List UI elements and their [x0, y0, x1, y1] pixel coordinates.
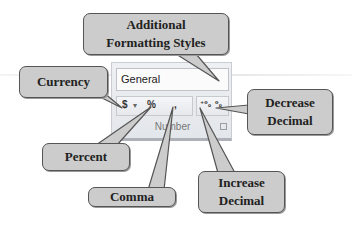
callout-decrease-decimal: Decrease Decimal — [247, 89, 333, 135]
callout-percent: Percent — [42, 143, 130, 171]
decrease-decimal-button[interactable]: ⁰₀ — [215, 100, 222, 109]
number-format-dropdown[interactable]: General — [116, 68, 229, 91]
callout-currency: Currency — [19, 66, 108, 98]
increase-decimal-button[interactable]: ⁺⁰₀ — [200, 100, 211, 109]
callout-text-line: Decimal — [267, 112, 312, 130]
callout-comma: Comma — [88, 187, 176, 207]
callout-text-line: Decrease — [265, 94, 315, 112]
number-group-label: Number — [112, 121, 233, 132]
callout-text-line: Additional — [126, 16, 185, 34]
callout-text-line: Percent — [65, 148, 107, 166]
callout-increase-decimal: Increase Decimal — [198, 171, 285, 213]
decimal-buttons-group: ⁺⁰₀ ⁰₀ — [196, 96, 229, 116]
currency-dropdown-icon[interactable]: ▾ — [133, 101, 137, 110]
dialog-launcher-icon[interactable] — [220, 123, 227, 130]
callout-text-line: Currency — [37, 73, 90, 91]
comma-button[interactable]: , — [174, 99, 177, 110]
callout-text-line: Formatting Styles — [106, 34, 205, 52]
number-format-value: General — [121, 73, 160, 85]
callout-additional-formatting: Additional Formatting Styles — [83, 13, 229, 55]
currency-button[interactable]: $ — [122, 99, 128, 110]
number-group-panel: General $ ▾ % , ⁺⁰₀ ⁰₀ Number — [111, 62, 232, 141]
format-buttons-group: $ ▾ % , — [116, 96, 193, 116]
callout-text-line: Decimal — [219, 192, 264, 210]
callout-text-line: Comma — [110, 188, 154, 206]
callout-text-line: Increase — [218, 174, 265, 192]
percent-button[interactable]: % — [147, 99, 156, 110]
